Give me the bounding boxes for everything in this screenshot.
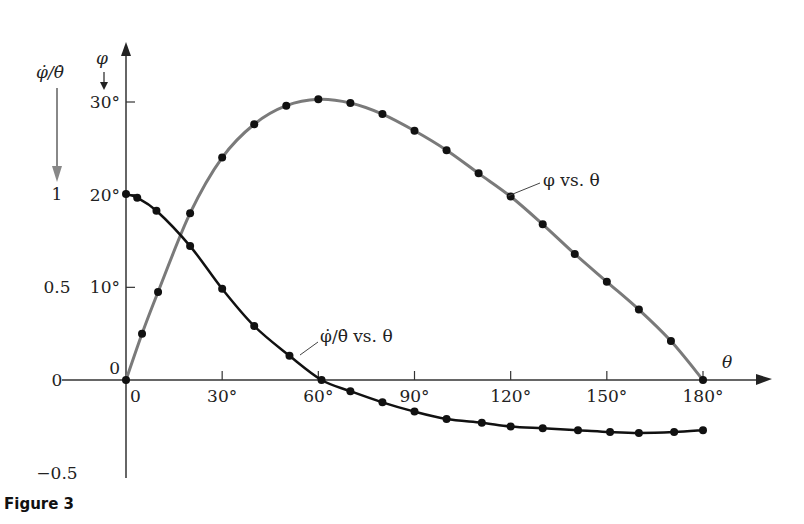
- ratio-data-point: [443, 415, 451, 423]
- phi-data-point: [475, 169, 483, 177]
- phi-data-point: [186, 209, 194, 217]
- x-axis-arrow-icon: [756, 374, 772, 385]
- x-tick-label: 150°: [586, 386, 627, 406]
- x-tick-label: 60°: [303, 386, 333, 406]
- phi-data-point: [667, 337, 675, 345]
- x-tick-label: 0: [130, 386, 141, 406]
- phi-data-point: [218, 154, 226, 162]
- ratio-data-point: [250, 322, 258, 330]
- phi-data-point: [314, 95, 322, 103]
- ratio-tick-label: 0.5: [43, 277, 70, 297]
- phi-data-point: [699, 376, 707, 384]
- phi-tick-label: 30°: [90, 92, 120, 112]
- phi-tick-label: 0: [109, 358, 120, 378]
- ratio-data-point: [218, 285, 226, 293]
- ratio-data-point: [670, 428, 678, 436]
- phi-data-point: [539, 220, 547, 228]
- x-tick-label: 30°: [207, 386, 237, 406]
- ratio-data-point: [152, 207, 160, 215]
- ratio-series-leader: [300, 342, 318, 355]
- phi-series-leader: [508, 183, 540, 196]
- ratio-data-point: [186, 242, 194, 250]
- ratio-tick-label: 0: [52, 370, 63, 390]
- figure-caption: Figure 3: [4, 495, 74, 513]
- ratio-data-point: [133, 194, 141, 202]
- phi-data-point: [250, 120, 258, 128]
- x-tick-label: 180°: [683, 386, 724, 406]
- ratio-data-point: [411, 408, 419, 416]
- ratio-series-label: φ̇/θ̇ vs. θ: [320, 326, 393, 346]
- phi-tick-label: 20°: [90, 185, 120, 205]
- phi-series-label: φ vs. θ: [543, 170, 600, 190]
- ratio-data-point: [635, 429, 643, 437]
- ratio-down-arrow-icon: [52, 166, 62, 182]
- figure-chart: φ̇/θ̇ φ θ 030°60°90°120°150°180° 010°20°…: [0, 0, 804, 524]
- ratio-axis-label: φ̇/θ̇: [36, 62, 64, 82]
- ratio-data-point: [478, 419, 486, 427]
- ratio-data-point: [539, 424, 547, 432]
- phi-series-line: [126, 99, 703, 380]
- phi-data-point: [443, 146, 451, 154]
- ratio-data-point: [507, 423, 515, 431]
- phi-data-point: [282, 102, 290, 110]
- y-axis-arrow-icon: [121, 42, 131, 56]
- phi-data-point: [346, 99, 354, 107]
- x-tick-label: 90°: [399, 386, 429, 406]
- phi-data-point: [603, 278, 611, 286]
- phi-data-point: [138, 330, 146, 338]
- phi-axis-label: φ: [96, 48, 108, 68]
- ratio-tick-label: 1: [52, 184, 63, 204]
- phi-tick-label: 10°: [90, 277, 120, 297]
- phi-data-point: [378, 110, 386, 118]
- ratio-tick-label: −0.5: [36, 463, 77, 483]
- x-axis-label: θ: [722, 352, 732, 372]
- x-tick-label: 120°: [490, 386, 531, 406]
- phi-data-point: [122, 376, 130, 384]
- phi-data-point: [571, 250, 579, 258]
- phi-data-point: [154, 288, 162, 296]
- ratio-data-point: [122, 190, 130, 198]
- ratio-data-point: [606, 428, 614, 436]
- ratio-data-point: [318, 376, 326, 384]
- ratio-data-point: [285, 352, 293, 360]
- phi-data-point: [411, 127, 419, 135]
- phi-down-arrow-icon: [100, 82, 108, 90]
- phi-data-point: [635, 306, 643, 314]
- ratio-data-point: [346, 387, 354, 395]
- ratio-data-point: [378, 398, 386, 406]
- ratio-data-point: [574, 426, 582, 434]
- ratio-data-point: [699, 426, 707, 434]
